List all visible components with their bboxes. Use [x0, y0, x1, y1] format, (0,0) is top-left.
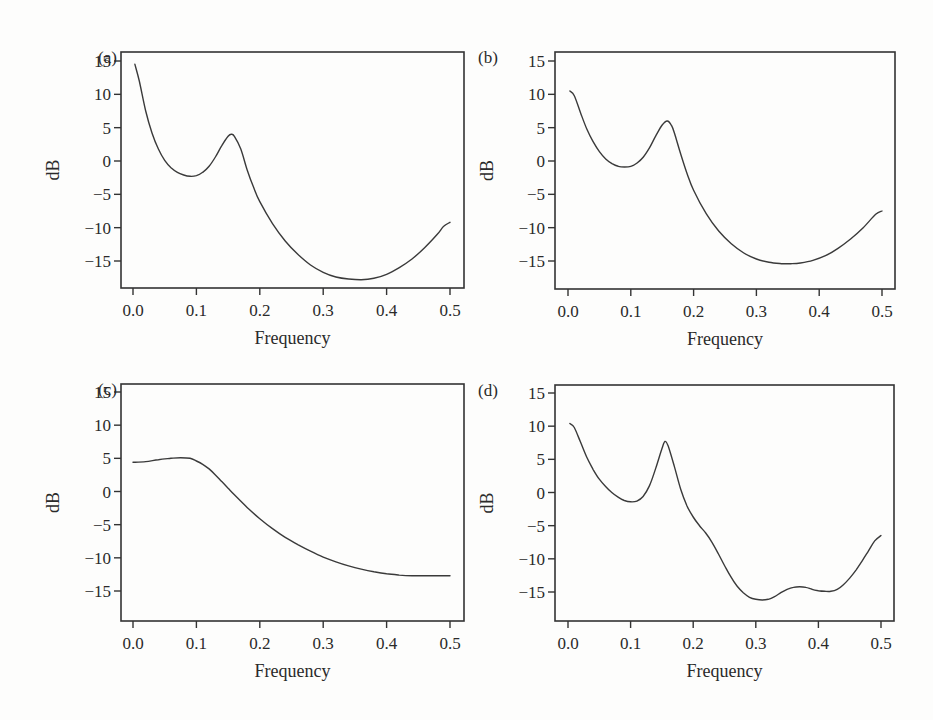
y-tick-label: −5	[93, 516, 111, 535]
y-axis-label: dB	[477, 160, 497, 181]
x-tick-label: 0.4	[808, 634, 830, 653]
x-tick-label: 0.2	[683, 302, 704, 321]
plot-frame	[555, 52, 895, 289]
x-axis-label: Frequency	[687, 661, 763, 681]
spectral-density-curve	[133, 458, 450, 576]
y-tick-label: 10	[94, 85, 111, 104]
y-tick-label: −15	[84, 582, 111, 601]
y-tick-label: 10	[528, 417, 545, 436]
x-tick-label: 0.5	[439, 634, 460, 653]
y-tick-label: −10	[518, 219, 545, 238]
x-tick-label: 0.2	[249, 634, 270, 653]
y-tick-label: 0	[537, 152, 546, 171]
y-tick-label: −5	[527, 185, 545, 204]
y-tick-label: −10	[84, 219, 111, 238]
plot-frame	[121, 52, 464, 288]
y-tick-label: 10	[528, 85, 545, 104]
panel-c: 151050−5−10−150.00.10.20.30.40.5Frequenc…	[43, 380, 464, 681]
panel-d: 151050−5−10−150.00.10.20.30.40.5Frequenc…	[477, 381, 894, 681]
x-tick-label: 0.0	[122, 634, 143, 653]
x-tick-label: 0.1	[620, 634, 641, 653]
x-tick-label: 0.1	[186, 634, 207, 653]
x-tick-label: 0.1	[186, 301, 207, 320]
x-tick-label: 0.5	[439, 301, 460, 320]
spectral-density-curve	[570, 91, 882, 264]
panel-b: 151050−5−10−150.00.10.20.30.40.5Frequenc…	[477, 48, 895, 349]
x-tick-label: 0.1	[620, 302, 641, 321]
y-tick-label: 0	[103, 483, 112, 502]
x-tick-label: 0.2	[683, 634, 704, 653]
y-axis-label: dB	[43, 159, 63, 180]
x-axis-label: Frequency	[687, 329, 763, 349]
y-axis-label: dB	[43, 492, 63, 513]
y-tick-label: 10	[94, 416, 111, 435]
x-tick-label: 0.4	[809, 302, 831, 321]
y-tick-label: 5	[537, 119, 546, 138]
y-tick-label: 0	[537, 484, 546, 503]
x-tick-label: 0.3	[313, 634, 334, 653]
x-tick-label: 0.5	[870, 634, 891, 653]
y-tick-label: 5	[103, 449, 112, 468]
y-axis-label: dB	[477, 492, 497, 513]
x-tick-label: 0.2	[249, 301, 270, 320]
y-tick-label: −5	[527, 517, 545, 536]
y-tick-label: −15	[518, 252, 545, 271]
y-tick-label: −5	[93, 185, 111, 204]
x-tick-label: 0.3	[745, 634, 766, 653]
y-tick-label: −10	[84, 549, 111, 568]
figure-2x2-spectral-density: 151050−5−10−150.00.10.20.30.40.5Frequenc…	[0, 0, 933, 720]
x-tick-label: 0.0	[557, 302, 578, 321]
panel-a: 151050−5−10−150.00.10.20.30.40.5Frequenc…	[43, 48, 464, 348]
spectral-density-curve	[135, 64, 450, 279]
y-tick-label: 0	[103, 152, 112, 171]
x-axis-label: Frequency	[255, 661, 331, 681]
x-tick-label: 0.3	[313, 301, 334, 320]
y-tick-label: 5	[537, 450, 546, 469]
y-tick-label: 15	[528, 384, 545, 403]
y-tick-label: 5	[103, 119, 112, 138]
panel-label: (b)	[478, 48, 498, 67]
panel-label: (c)	[98, 380, 117, 399]
x-tick-label: 0.4	[376, 634, 398, 653]
x-tick-label: 0.0	[122, 301, 143, 320]
plot-frame	[121, 384, 464, 621]
y-tick-label: −10	[518, 550, 545, 569]
y-tick-label: −15	[84, 252, 111, 271]
x-tick-label: 0.3	[746, 302, 767, 321]
x-tick-label: 0.5	[871, 302, 892, 321]
panel-label: (a)	[98, 48, 117, 67]
panel-label: (d)	[478, 381, 498, 400]
x-tick-label: 0.0	[557, 634, 578, 653]
y-tick-label: 15	[528, 52, 545, 71]
x-axis-label: Frequency	[255, 328, 331, 348]
x-tick-label: 0.4	[376, 301, 398, 320]
y-tick-label: −15	[518, 583, 545, 602]
spectral-density-curve	[570, 424, 881, 601]
